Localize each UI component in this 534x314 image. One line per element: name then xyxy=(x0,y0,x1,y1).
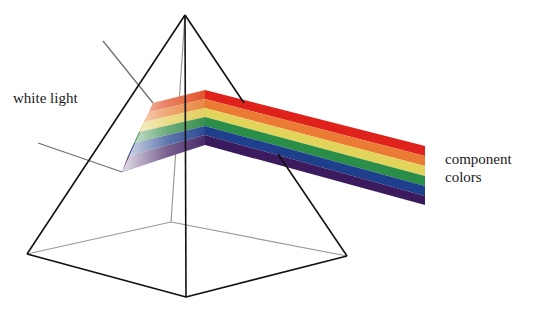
component-colors-label-line2: colors xyxy=(445,168,482,186)
component-colors-label-line1: component xyxy=(445,150,512,168)
outer-beam xyxy=(205,90,425,205)
white-light-label: white light xyxy=(13,89,78,107)
inner-beam xyxy=(122,90,205,172)
